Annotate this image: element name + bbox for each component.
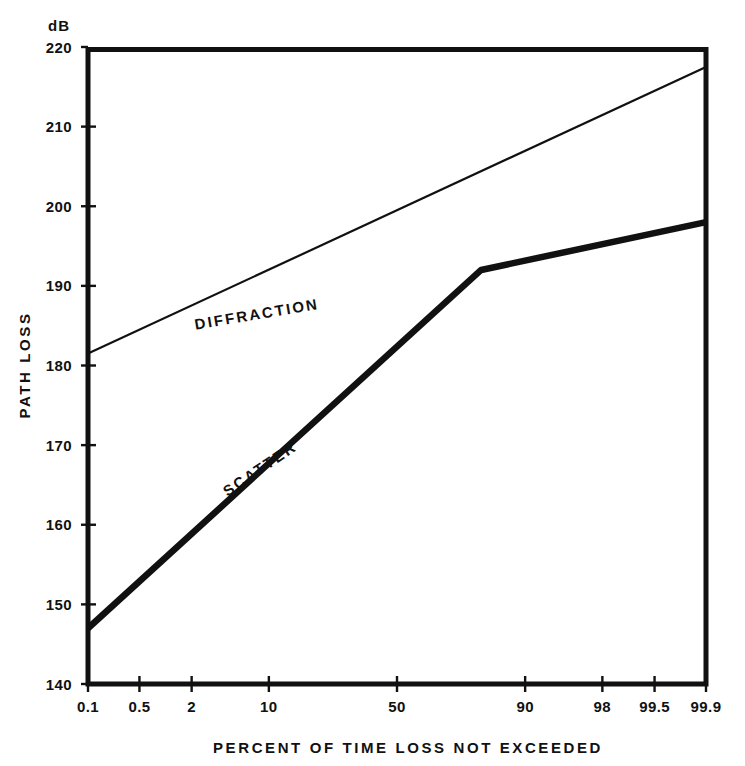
x-tick-label: 99.5 xyxy=(639,698,670,715)
series-annotations: DIFFRACTIONSCATTER xyxy=(193,295,320,499)
y-tick-label: 210 xyxy=(46,118,72,135)
path-loss-probability-chart: 140150160170180190200210220 0.10.5210509… xyxy=(0,0,745,766)
y-tick-label: 180 xyxy=(46,357,72,374)
y-tick-label: 220 xyxy=(46,39,72,56)
annotation-diffraction: DIFFRACTION xyxy=(193,295,320,333)
x-tick-label: 90 xyxy=(516,698,534,715)
plot-frame xyxy=(88,47,706,684)
x-tick-label: 10 xyxy=(260,698,278,715)
x-tick-label: 0.1 xyxy=(77,698,99,715)
chart-figure: 140150160170180190200210220 0.10.5210509… xyxy=(0,0,745,766)
x-axis-tick-labels: 0.10.521050909899.599.9 xyxy=(77,698,721,715)
y-tick-label: 170 xyxy=(46,437,72,454)
y-axis-title: PATH LOSS xyxy=(16,311,33,418)
x-tick-label: 99.9 xyxy=(691,698,722,715)
series-line-diffraction xyxy=(88,67,706,354)
y-tick-label: 140 xyxy=(46,676,72,693)
x-tick-label: 50 xyxy=(388,698,406,715)
x-tick-label: 2 xyxy=(187,698,196,715)
y-tick-label: 160 xyxy=(46,516,72,533)
x-tick-label: 0.5 xyxy=(128,698,150,715)
y-axis-tick-labels: 140150160170180190200210220 xyxy=(46,39,72,693)
y-tick-label: 200 xyxy=(46,198,72,215)
series-line-scatter xyxy=(88,222,706,628)
annotation-scatter: SCATTER xyxy=(220,438,300,500)
y-tick-label: 150 xyxy=(46,596,72,613)
y-unit-label: dB xyxy=(48,17,70,34)
x-axis-title: PERCENT OF TIME LOSS NOT EXCEEDED xyxy=(213,739,603,756)
y-tick-label: 190 xyxy=(46,277,72,294)
data-series-group xyxy=(88,67,706,628)
x-tick-label: 98 xyxy=(594,698,612,715)
